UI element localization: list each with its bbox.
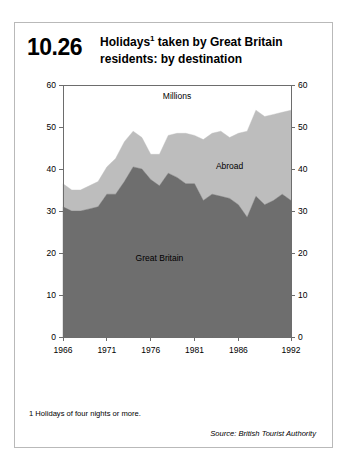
series-annotation-great-britain: Great Britain xyxy=(136,253,184,263)
x-axis-label: 1986 xyxy=(229,345,248,355)
figure-header: 10.26 Holidays1 taken by Great Britain r… xyxy=(15,23,332,68)
series-annotation-abroad: Abroad xyxy=(216,161,244,171)
y-axis-label-right: 40 xyxy=(298,164,308,174)
y-axis-label-left: 20 xyxy=(47,248,57,258)
units-label: Millions xyxy=(163,91,191,101)
x-axis-label: 1976 xyxy=(141,345,160,355)
y-axis-label-left: 50 xyxy=(47,122,57,132)
y-axis-label-left: 60 xyxy=(47,80,57,90)
chart-plot-area: 0010102020303040405050606019661971197619… xyxy=(15,75,334,367)
x-axis-label: 1981 xyxy=(185,345,204,355)
x-axis-label: 1971 xyxy=(97,345,116,355)
figure-footer: 1 Holidays of four nights or more. Sourc… xyxy=(15,409,332,447)
figure-title-text-rest: taken by Great Britain xyxy=(155,35,283,49)
y-axis-label-left: 30 xyxy=(47,206,57,216)
footnote-text: 1 Holidays of four nights or more. xyxy=(29,409,320,418)
y-axis-label-right: 0 xyxy=(298,332,303,342)
y-axis-label-left: 40 xyxy=(47,164,57,174)
y-axis-label-left: 10 xyxy=(47,290,57,300)
source-text: Source: British Tourist Authority xyxy=(29,429,320,438)
y-axis-label-right: 10 xyxy=(298,290,308,300)
figure-title-line2: residents: by destination xyxy=(100,52,242,66)
figure-number: 10.26 xyxy=(27,34,82,59)
figure-title-text: Holidays xyxy=(100,35,150,49)
y-axis-label-right: 50 xyxy=(298,122,308,132)
stacked-area-chart: 0010102020303040405050606019661971197619… xyxy=(15,75,334,367)
y-axis-label-right: 30 xyxy=(298,206,308,216)
chart-series-group xyxy=(63,110,291,337)
x-axis-label: 1992 xyxy=(282,345,301,355)
y-axis-label-right: 20 xyxy=(298,248,308,258)
y-axis-label-right: 60 xyxy=(298,80,308,90)
figure-title: Holidays1 taken by Great Britain residen… xyxy=(100,34,305,68)
x-axis-label: 1966 xyxy=(54,345,73,355)
y-axis-label-left: 0 xyxy=(51,332,56,342)
figure-card: 10.26 Holidays1 taken by Great Britain r… xyxy=(14,22,333,448)
